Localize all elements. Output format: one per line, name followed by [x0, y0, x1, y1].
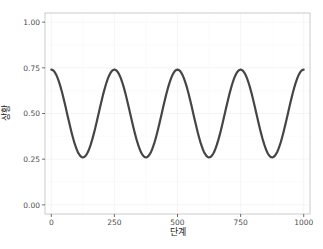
x-tick-label: 0 — [49, 218, 54, 227]
x-axis-title: 단계 — [170, 226, 186, 237]
y-tick-label: 0.00 — [23, 201, 40, 210]
x-axis: 02505007501000 — [49, 214, 314, 227]
y-tick-label: 0.25 — [23, 155, 40, 164]
x-tick-label: 500 — [170, 218, 185, 227]
y-tick-label: 0.50 — [23, 109, 40, 118]
x-tick-label: 1000 — [294, 218, 313, 227]
y-axis: 0.000.250.500.751.00 — [23, 18, 45, 210]
y-tick-label: 1.00 — [23, 18, 40, 27]
y-axis-title: 상황 — [1, 105, 11, 121]
gridlines — [45, 13, 310, 214]
y-tick-label: 0.75 — [23, 64, 40, 73]
x-tick-label: 750 — [233, 218, 248, 227]
line-chart: 0.000.250.500.751.00 02505007501000 단계 상… — [0, 0, 323, 249]
x-tick-label: 250 — [107, 218, 122, 227]
